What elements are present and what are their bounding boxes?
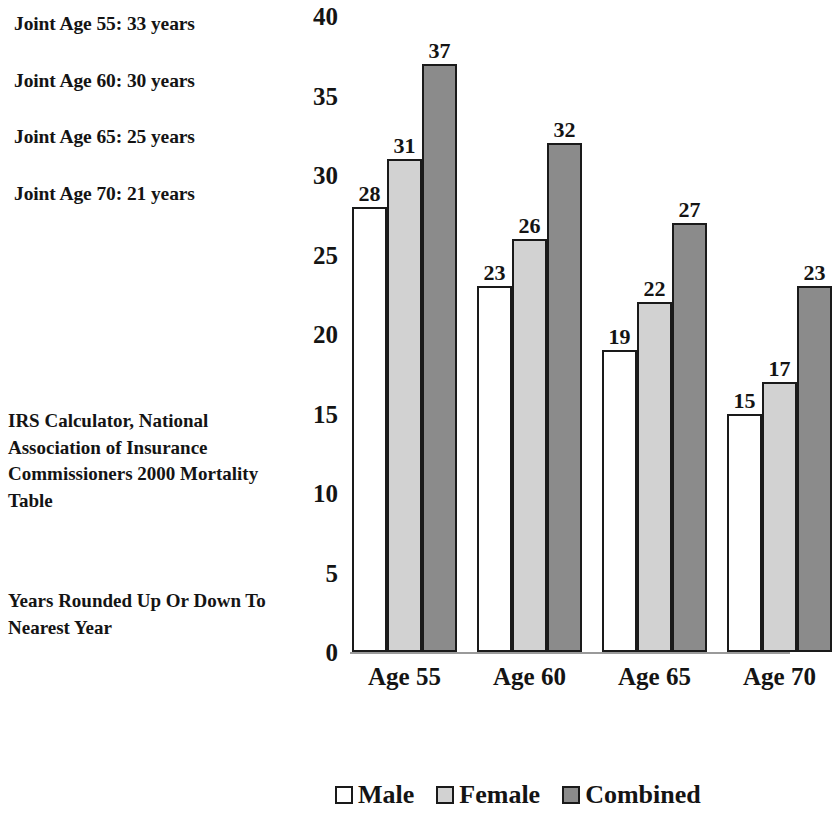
bar-value-label: 23: [484, 262, 506, 284]
bar-value-label: 17: [769, 358, 791, 380]
bar-female-age-60[interactable]: 26: [512, 239, 547, 652]
legend-swatch-female-icon: [436, 786, 454, 804]
joint-life-expectancy-list: Joint Age 55: 33 years Joint Age 60: 30 …: [14, 14, 290, 240]
rounding-note: Years Rounded Up Or Down To Nearest Year: [8, 588, 288, 641]
plot-area: 283137232632192227151723: [352, 10, 790, 652]
legend-label: Male: [358, 782, 414, 808]
bar-male-age-55[interactable]: 28: [352, 207, 387, 652]
x-axis-line: [350, 652, 790, 654]
legend-item-combined[interactable]: Combined: [562, 782, 701, 808]
bar-value-label: 37: [429, 40, 451, 62]
bar-chart: 0510152025303540 28313723263219222715172…: [290, 0, 804, 827]
bar-combined-age-70[interactable]: 23: [797, 286, 832, 652]
bar-combined-age-65[interactable]: 27: [672, 223, 707, 652]
x-axis-label-age-60: Age 60: [477, 664, 582, 689]
annotations-panel: Joint Age 55: 33 years Joint Age 60: 30 …: [0, 0, 290, 827]
y-axis-tick: 0: [276, 640, 338, 665]
bar-female-age-65[interactable]: 22: [637, 302, 672, 652]
joint-line: Joint Age 65: 25 years: [14, 127, 290, 147]
x-axis-label-age-55: Age 55: [352, 664, 457, 689]
bar-group: 192227: [602, 10, 707, 652]
y-axis-tick: 25: [276, 242, 338, 267]
joint-line: Joint Age 70: 21 years: [14, 184, 290, 204]
bar-female-age-70[interactable]: 17: [762, 382, 797, 652]
bar-value-label: 15: [734, 390, 756, 412]
joint-line: Joint Age 55: 33 years: [14, 14, 290, 34]
bar-group: 151723: [727, 10, 832, 652]
bar-male-age-65[interactable]: 19: [602, 350, 637, 652]
chart-legend: MaleFemaleCombined: [335, 782, 805, 808]
bar-value-label: 19: [609, 326, 631, 348]
bar-value-label: 28: [359, 183, 381, 205]
bar-male-age-70[interactable]: 15: [727, 414, 762, 653]
legend-item-male[interactable]: Male: [335, 782, 414, 808]
bar-combined-age-60[interactable]: 32: [547, 143, 582, 652]
source-note: IRS Calculator, National Association of …: [8, 408, 288, 514]
y-axis-tick: 35: [276, 83, 338, 108]
legend-swatch-combined-icon: [562, 786, 580, 804]
bar-combined-age-55[interactable]: 37: [422, 64, 457, 652]
y-axis-tick: 20: [276, 322, 338, 347]
y-axis-tick: 40: [276, 4, 338, 29]
bar-value-label: 32: [554, 119, 576, 141]
bar-group: 232632: [477, 10, 582, 652]
y-axis-tick: 30: [276, 163, 338, 188]
bar-value-label: 27: [679, 199, 701, 221]
bar-group: 283137: [352, 10, 457, 652]
legend-item-female[interactable]: Female: [436, 782, 540, 808]
legend-swatch-male-icon: [335, 786, 353, 804]
x-axis-label-age-65: Age 65: [602, 664, 707, 689]
bar-value-label: 22: [644, 278, 666, 300]
bar-value-label: 23: [804, 262, 826, 284]
legend-label: Female: [459, 782, 540, 808]
bar-value-label: 31: [394, 135, 416, 157]
joint-line: Joint Age 60: 30 years: [14, 71, 290, 91]
y-axis-tick: 10: [276, 481, 338, 506]
bar-value-label: 26: [519, 215, 541, 237]
y-axis-tick: 5: [276, 560, 338, 585]
y-axis-tick: 15: [276, 401, 338, 426]
bar-female-age-55[interactable]: 31: [387, 159, 422, 652]
bar-male-age-60[interactable]: 23: [477, 286, 512, 652]
legend-label: Combined: [585, 782, 701, 808]
x-axis-label-age-70: Age 70: [727, 664, 832, 689]
